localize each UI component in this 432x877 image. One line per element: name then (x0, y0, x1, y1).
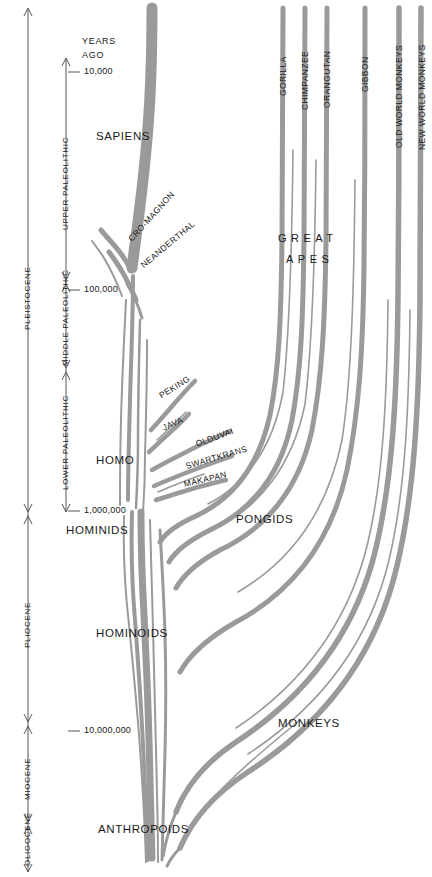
label-anthropoids: ANTHROPOIDS (98, 824, 189, 836)
label-new-world-monkeys: NEW WORLD MONKEYS (418, 44, 427, 150)
label-homo: HOMO (96, 455, 134, 467)
label-hominids: HOMINIDS (66, 525, 128, 537)
label-monkeys: MONKEYS (278, 718, 340, 730)
axis-header-ago: AGO (82, 51, 104, 60)
label-gorilla: GORILLA (279, 56, 288, 96)
tick-label-100000: 100,000 (84, 285, 118, 294)
tick-label-10000000: 10,000,000 (84, 726, 131, 735)
tick-label-1000000: 1,000,000 (84, 506, 126, 515)
epoch-label-pleistocene: PLEISTOCENE (24, 266, 32, 330)
label-hominoids: HOMINOIDS (96, 628, 168, 640)
tick-label-10000: 10,000 (84, 67, 113, 76)
culture-label-middle-paleolithic: MIDDLE PALEOLITHIC (62, 270, 70, 366)
culture-label-lower-paleolithic: LOWER PALEOLITHIC (62, 395, 70, 490)
label-sapiens: SAPIENS (96, 131, 150, 143)
evolution-tree-diagram: YEARS AGO 10,000 100,000 1,000,000 10,00… (0, 0, 432, 877)
label-orangutan: ORANGUTAN (323, 51, 332, 108)
culture-label-upper-paleolithic: UPPER PALEOLITHIC (62, 137, 70, 230)
label-pongids: PONGIDS (236, 514, 293, 526)
label-chimpanzee: CHIMPANZEE (301, 51, 310, 110)
label-apes: APES (286, 254, 333, 265)
label-gibbon: GIBBON (361, 57, 370, 92)
epoch-label-miocene: MIOCENE (24, 758, 32, 800)
epoch-label-pliocene: PLIOCENE (24, 602, 32, 648)
axis-header-years: YEARS (82, 37, 116, 46)
epoch-label-oligocene: OLIGOCENE (24, 812, 32, 866)
label-old-world-monkeys: OLD WORLD MONKEYS (395, 45, 404, 148)
label-great: GREAT (278, 233, 338, 244)
